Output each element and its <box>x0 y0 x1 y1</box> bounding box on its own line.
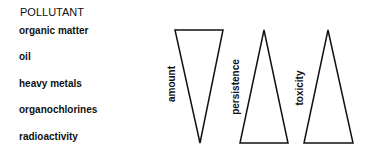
amount-triangle <box>175 30 223 143</box>
indicator-diagram: amount persistence toxicity <box>0 0 369 152</box>
toxicity-label: toxicity <box>294 70 305 105</box>
persistence-label: persistence <box>230 59 241 115</box>
persistence-triangle <box>240 30 288 143</box>
amount-label: amount <box>166 65 177 102</box>
toxicity-triangle <box>304 30 353 143</box>
